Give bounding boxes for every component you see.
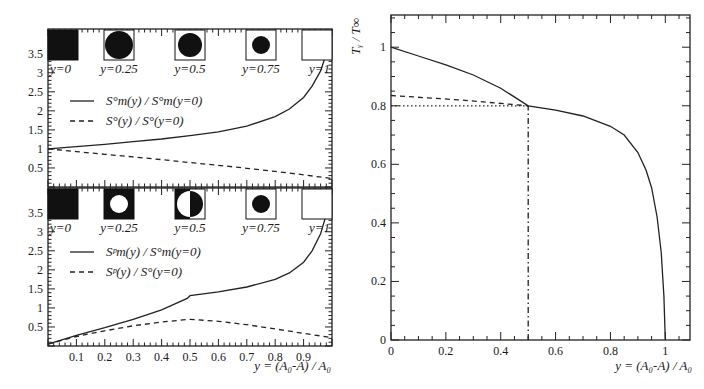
y-tick-label: 0.5 [28,161,43,175]
y-tick-label: 0.8 [371,99,386,113]
inset-square [48,30,78,60]
inset-label: y=0.25 [98,61,138,76]
inset-filled-square: y=0 [48,30,78,76]
inset-half-split: y=0.5 [173,189,206,235]
y-tick-label: 1.5 [28,282,43,296]
inset-circle [252,195,270,213]
inset-label: y=0.75 [240,220,280,235]
inset-square [302,189,332,219]
y-tick-label: 2.5 [28,85,43,99]
inset-label: y=0 [48,220,72,235]
x-tick-label: 0 [388,344,394,358]
legend-label: S°(y) / S°(y=0) [106,113,184,128]
x-tick-label: 0.6 [211,350,226,364]
x-tick-label: 0.8 [603,344,618,358]
y-tick-label: 3 [37,66,43,80]
x-tick-label: 0.7 [239,350,254,364]
y-tick-label: 0.5 [28,320,43,334]
x-tick-label: 0.4 [154,350,169,364]
figure: 0.511.522.533.5S°m(y) / S°m(y=0)S°(y) / … [0,0,704,389]
legend-label: Sᵖ(y) / S°(y=0) [106,264,182,279]
y-tick-label: 1 [37,142,43,156]
inset-square-with-filled-circle-small: y=0.75 [240,189,280,235]
inset-label: y=1 [307,61,330,76]
y-tick-label: 3.5 [28,206,43,220]
inset-square-with-filled-circle-large: y=0.25 [98,30,138,76]
inset-label: y=0.5 [173,220,206,235]
y-tick-label: 0.2 [371,274,386,288]
inset-label: y=0 [48,61,72,76]
y-tick-label: 0.6 [371,157,386,171]
x-tick-label: 0.1 [69,350,84,364]
inset-square-with-filled-circle-medium: y=0.5 [173,30,206,76]
y-tick-label: 3 [37,225,43,239]
bottom-left-panel: 0.511.522.533.50.10.20.30.40.50.60.70.80… [28,188,332,364]
inset-filled-square-with-white-circle: y=0.25 [98,189,138,235]
right-panel: 00.20.40.60.8100.20.40.60.81 [371,15,690,358]
inset-circle [178,33,202,57]
inset-circle [252,36,270,54]
legend-label: Sᵖm(y) / S°m(y=0) [106,244,201,259]
x-tick-label: 0.6 [548,344,563,358]
top-left-panel: 0.511.522.533.5S°m(y) / S°m(y=0)S°(y) / … [28,29,332,187]
y-tick-label: 3.5 [28,47,43,61]
y-tick-label: 1 [37,301,43,315]
right-y-axis-title: Tᵧ / T∞ [348,18,363,55]
inset-empty-square: y=1 [302,189,332,235]
plot-frame [391,15,690,340]
inset-label: y=0.5 [173,61,206,76]
inset-label: y=1 [307,220,330,235]
x-tick-label: 0.5 [183,350,198,364]
legend-label: S°m(y) / S°m(y=0) [106,93,202,108]
inset-label: y=0.75 [240,61,280,76]
x-tick-label: 1 [662,344,668,358]
inset-square [302,30,332,60]
y-tick-label: 0.4 [371,216,386,230]
inset-label: y=0.25 [98,220,138,235]
y-tick-label: 1 [380,40,386,54]
y-tick-label: 2 [37,263,43,277]
series-line [48,149,332,179]
y-tick-label: 0 [380,333,386,347]
series-line [391,96,528,106]
inset-square-with-filled-circle-small: y=0.75 [240,30,280,76]
y-tick-label: 1.5 [28,123,43,137]
y-tick-label: 2.5 [28,244,43,258]
bottom-left-x-axis-title: y = (A₀-A) / A₀ [252,358,331,373]
right-x-axis-title: y = (A₀-A) / A₀ [613,358,692,373]
y-tick-label: 2 [37,104,43,118]
x-tick-label: 0.2 [97,350,112,364]
inset-circle [105,31,133,59]
x-tick-label: 0.4 [493,344,508,358]
inset-circle [110,195,128,213]
inset-empty-square: y=1 [302,30,332,76]
x-tick-label: 0.2 [438,344,453,358]
inset-square [48,189,78,219]
x-tick-label: 0.3 [126,350,141,364]
inset-filled-square: y=0 [48,189,78,235]
